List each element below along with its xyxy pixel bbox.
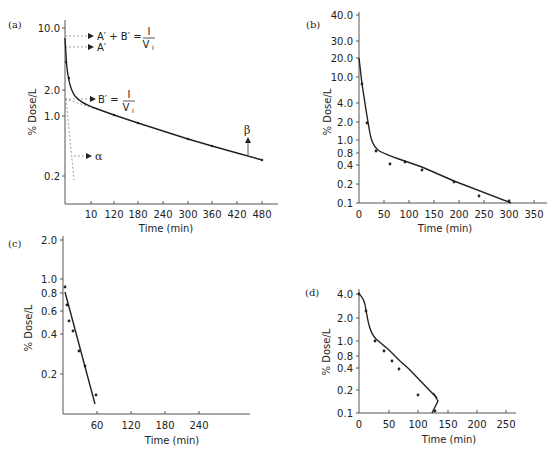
y-tick-label: 0.2 xyxy=(337,385,353,396)
x-tick-label: 120 xyxy=(104,209,123,220)
arrow-right-icon xyxy=(88,44,94,50)
fraction-subscript: I xyxy=(132,107,134,114)
panel-c-label: (c) xyxy=(8,238,22,249)
x-tick-label: 250 xyxy=(474,209,493,220)
fraction-subscript: I xyxy=(152,44,154,51)
y-tick-label: 10.0 xyxy=(38,23,60,34)
y-tick-label: 1.0 xyxy=(337,135,353,146)
x-tick-label: 60 xyxy=(91,420,104,431)
y-tick-label: 0.1 xyxy=(337,198,353,209)
x-tick-label: 100 xyxy=(399,209,418,220)
panel-c-x-label: Time (min) xyxy=(144,435,199,446)
y-tick-label: 0.1 xyxy=(337,408,353,419)
panel-b: (b) 40.0 30.0 20.0 10.0 4.0 2.0 1.0 0.8 … xyxy=(306,10,547,234)
y-tick-label: 2.0 xyxy=(337,313,353,324)
x-tick-label: 420 xyxy=(227,209,246,220)
panel-a: (a) 10.0 2.0 1.0 0.2 10 120 180 xyxy=(8,19,278,234)
x-tick-label: 200 xyxy=(467,419,486,430)
panel-c-y-ticks: 2.0 1.0 0.8 0.6 0.4 0.2 xyxy=(41,235,63,380)
y-tick-label: 1.0 xyxy=(44,111,60,122)
panel-c: (c) 2.0 1.0 0.8 0.6 0.4 0.2 60 120 180 2… xyxy=(8,235,250,446)
x-tick-label: 0 xyxy=(356,419,362,430)
x-tick-label: 480 xyxy=(252,209,271,220)
x-tick-label: 50 xyxy=(383,419,396,430)
fraction-numerator: I xyxy=(148,26,151,37)
panel-d-points xyxy=(358,293,437,413)
x-tick-label: 10 xyxy=(85,209,98,220)
panel-b-y-label: % Dose/L xyxy=(322,88,333,135)
y-tick-label: 1.0 xyxy=(337,336,353,347)
x-tick-label: 150 xyxy=(438,419,457,430)
x-tick-label: 200 xyxy=(449,209,468,220)
y-tick-label: 0.4 xyxy=(41,329,57,340)
x-tick-label: 300 xyxy=(178,209,197,220)
panel-c-fit-line xyxy=(65,292,95,404)
x-tick-label: 100 xyxy=(408,419,427,430)
arrow-up-icon xyxy=(245,137,251,143)
y-tick-label: 40.0 xyxy=(331,10,353,21)
panel-c-points xyxy=(64,286,98,397)
panel-a-guides xyxy=(65,36,112,180)
panel-b-fit-line xyxy=(359,58,511,203)
x-tick-label: 180 xyxy=(155,420,174,431)
panel-a-annotations: A′ + B′ = I V I A′ B′ = I V I α β xyxy=(95,26,250,163)
y-tick-label: 10.0 xyxy=(331,72,353,83)
alpha-extrapolation-line xyxy=(66,99,74,180)
y-tick-label: 0.2 xyxy=(41,369,57,380)
panel-d-label: (d) xyxy=(305,287,319,298)
fraction-denominator: V xyxy=(143,39,150,50)
y-tick-label: 4.0 xyxy=(337,98,353,109)
x-tick-label: 50 xyxy=(378,209,391,220)
y-tick-label: 20.0 xyxy=(331,53,353,64)
panel-d-x-label: Time (min) xyxy=(421,434,476,445)
y-tick-label: 0.2 xyxy=(337,179,353,190)
x-tick-label: 360 xyxy=(202,209,221,220)
annotation-a-prime: A′ xyxy=(97,42,107,53)
y-tick-label: 4.0 xyxy=(337,289,353,300)
panel-b-label: (b) xyxy=(306,19,320,30)
y-tick-label: 0.4 xyxy=(337,160,353,171)
y-tick-label: 2.0 xyxy=(41,235,57,246)
x-tick-label: 350 xyxy=(524,209,543,220)
y-tick-label: 0.8 xyxy=(337,148,353,159)
x-tick-label: 180 xyxy=(128,209,147,220)
panel-a-y-label: % Dose/L xyxy=(27,88,38,135)
x-tick-label: 300 xyxy=(499,209,518,220)
panel-d-y-label: % Dose/L xyxy=(321,328,332,375)
x-tick-label: 240 xyxy=(189,420,208,431)
panel-d-y-ticks: 4.0 2.0 1.0 0.8 0.4 0.2 0.1 xyxy=(337,289,359,419)
y-tick-label: 0.8 xyxy=(337,351,353,362)
annotation-beta: β xyxy=(244,124,250,137)
figure: (a) 10.0 2.0 1.0 0.2 10 120 180 xyxy=(0,0,560,464)
panel-c-y-label: % Dose/L xyxy=(23,304,34,351)
y-tick-label: 0.6 xyxy=(41,306,57,317)
y-tick-label: 0.8 xyxy=(41,288,57,299)
panel-d-fit-line xyxy=(359,294,438,413)
annotation-a-plus-b: A′ + B′ = xyxy=(97,31,142,42)
annotation-alpha: α xyxy=(95,150,103,163)
x-tick-label: 250 xyxy=(496,419,515,430)
panel-b-points xyxy=(361,83,511,203)
fraction-numerator: I xyxy=(128,89,131,100)
arrow-right-icon xyxy=(90,96,96,102)
panel-b-x-label: Time (min) xyxy=(417,223,472,234)
annotation-b-prime: B′ = xyxy=(98,94,119,105)
y-tick-label: 2.0 xyxy=(337,117,353,128)
x-tick-label: 120 xyxy=(121,420,140,431)
x-tick-label: 0 xyxy=(356,209,362,220)
y-tick-label: 30.0 xyxy=(331,36,353,47)
y-tick-label: 2.0 xyxy=(44,85,60,96)
arrow-right-icon xyxy=(88,33,94,39)
y-tick-label: 0.2 xyxy=(44,171,60,182)
fraction-denominator: V xyxy=(123,102,130,113)
panel-a-label: (a) xyxy=(8,19,22,30)
panel-d: (d) 4.0 2.0 1.0 0.8 0.4 0.2 0.1 0 50 xyxy=(305,287,516,445)
panel-a-x-label: Time (min) xyxy=(138,223,193,234)
panel-b-y-ticks: 40.0 30.0 20.0 10.0 4.0 2.0 1.0 0.8 0.4 … xyxy=(331,10,359,209)
y-tick-label: 1.0 xyxy=(41,274,57,285)
x-tick-label: 150 xyxy=(424,209,443,220)
panel-a-points xyxy=(65,61,263,161)
x-tick-label: 240 xyxy=(153,209,172,220)
panel-a-y-ticks: 10.0 2.0 1.0 0.2 xyxy=(38,23,65,182)
y-tick-label: 0.4 xyxy=(337,363,353,374)
